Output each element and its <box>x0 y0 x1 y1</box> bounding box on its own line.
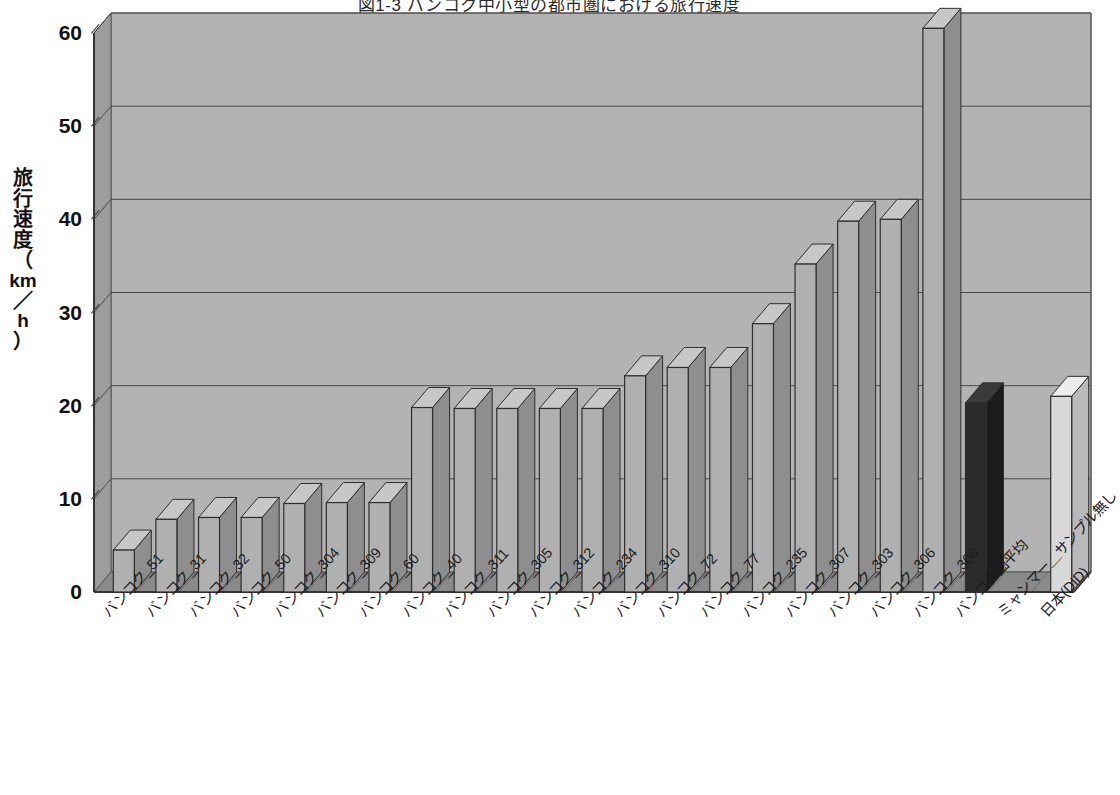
bar-バンコク_235[interactable] <box>752 324 773 592</box>
bar-バンコク_307-side <box>816 244 833 592</box>
bar-バンコク_308-side <box>944 8 961 592</box>
y-axis-tick-label: 30 <box>38 301 82 325</box>
bar-日本(DID)-side <box>1072 376 1089 592</box>
bar-バンコク_307[interactable] <box>795 264 816 592</box>
bar-バンコク_306[interactable] <box>880 219 901 592</box>
y-axis-tick-label: 50 <box>38 114 82 138</box>
bar-バンコク_303-side <box>859 201 876 592</box>
y-axis-tick-label: 10 <box>38 487 82 511</box>
bar-バンコク_306-side <box>901 199 918 592</box>
y-axis-tick-label: 40 <box>38 207 82 231</box>
bar-バンコク_303[interactable] <box>838 221 859 592</box>
y-axis-tick-label: 0 <box>38 580 82 604</box>
bar-バンコク_308[interactable] <box>923 28 944 592</box>
y-axis-tick-label: 20 <box>38 394 82 418</box>
y-axis-tick-label: 60 <box>38 21 82 45</box>
